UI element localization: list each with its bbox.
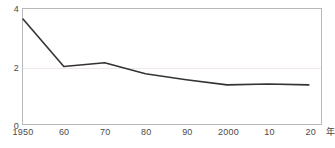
x-axis-tick-2020: 20: [305, 128, 315, 137]
x-axis-unit-label: 年: [326, 128, 335, 137]
line-chart: 4 2 0 1950 60 70 80 90 2000 10 20 年: [0, 0, 335, 148]
series-layer: [23, 9, 321, 124]
y-axis-tick-4: 4: [14, 5, 19, 14]
plot-area: 4 2 0 1950 60 70 80 90 2000 10 20 年: [22, 8, 322, 125]
x-axis-tick-1960: 60: [59, 128, 69, 137]
x-axis-tick-1950: 1950: [13, 128, 34, 137]
data-line-series-0: [23, 19, 309, 85]
x-axis-tick-1990: 90: [182, 128, 192, 137]
x-axis-tick-1980: 80: [141, 128, 151, 137]
x-axis-tick-2000: 2000: [218, 128, 239, 137]
x-axis-tick-2010: 10: [264, 128, 274, 137]
y-axis-tick-2: 2: [14, 63, 19, 72]
x-axis-tick-1970: 70: [100, 128, 110, 137]
